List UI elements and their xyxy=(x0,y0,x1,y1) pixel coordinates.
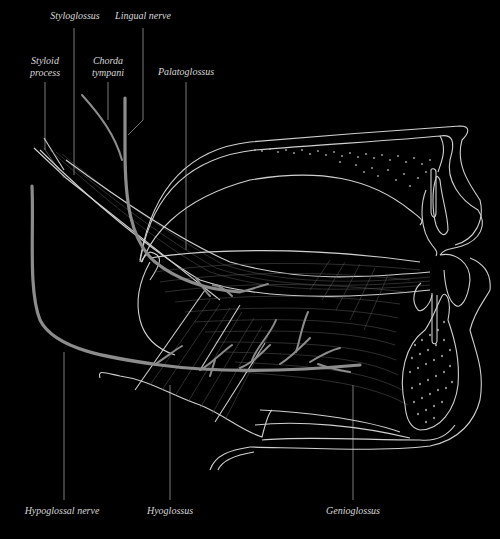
label-styloglossus: Styloglossus xyxy=(50,10,100,22)
lower-lip-and-incisors xyxy=(414,254,470,343)
hyoglossus-muscle xyxy=(100,262,272,437)
mandible xyxy=(402,294,458,430)
leader-lingual-nerve xyxy=(128,28,143,135)
label-styloid-process: Styloid process xyxy=(20,55,70,79)
hard-palate xyxy=(140,126,481,280)
label-hypoglossal-nerve: Hypoglossal nerve xyxy=(22,505,102,517)
label-chorda-tympani-line1: Chorda xyxy=(83,55,133,67)
mandible-bone-texture xyxy=(409,321,453,424)
label-hyoglossus: Hyoglossus xyxy=(144,505,196,517)
label-styloid-process-line2: process xyxy=(20,67,70,79)
label-chorda-tympani-line2: tympani xyxy=(83,67,133,79)
upper-lip-and-incisors xyxy=(422,136,482,256)
label-genioglossus: Genioglossus xyxy=(324,505,382,517)
leader-lines xyxy=(45,28,353,500)
label-styloid-process-line1: Styloid xyxy=(20,55,70,67)
chorda-tympani-nerve xyxy=(82,95,122,160)
styloglossus-muscle xyxy=(40,150,430,297)
label-lingual-nerve: Lingual nerve xyxy=(113,10,173,22)
palate-bone-texture xyxy=(254,148,431,186)
tongue-anatomy-diagram xyxy=(0,0,500,539)
label-chorda-tympani: Chorda tympani xyxy=(83,55,133,79)
label-palatoglossus: Palatoglossus xyxy=(155,66,217,78)
